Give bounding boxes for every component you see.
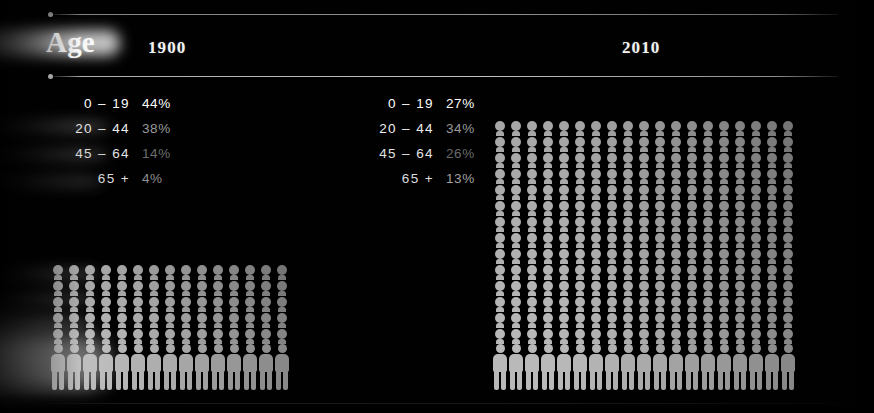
person-head-icon bbox=[620, 312, 636, 328]
person-head-icon bbox=[700, 248, 716, 264]
person-head-icon bbox=[508, 296, 524, 312]
person-head-icon bbox=[540, 232, 556, 248]
person-head-icon bbox=[194, 280, 210, 296]
legend-2010: 0 – 19 27% 20 – 44 34% 45 – 64 26% 65 + … bbox=[360, 96, 488, 196]
person-head-icon bbox=[716, 168, 732, 184]
person-head-icon bbox=[700, 136, 716, 152]
pictogram-head-row bbox=[492, 120, 796, 136]
person-head-icon bbox=[588, 136, 604, 152]
person-head-icon bbox=[732, 264, 748, 280]
person-head-icon bbox=[748, 312, 764, 328]
person-head-icon bbox=[684, 296, 700, 312]
pictogram-head-row bbox=[492, 264, 796, 280]
person-head-icon bbox=[700, 280, 716, 296]
person-head-icon bbox=[242, 280, 258, 296]
person-head-icon bbox=[194, 296, 210, 312]
person-head-icon bbox=[556, 184, 572, 200]
person-head-icon bbox=[636, 168, 652, 184]
person-head-icon bbox=[636, 328, 652, 344]
person-head-icon bbox=[540, 136, 556, 152]
person-head-icon bbox=[588, 232, 604, 248]
person-head-icon bbox=[146, 264, 162, 280]
person-head-icon bbox=[524, 280, 540, 296]
person-head-icon bbox=[668, 280, 684, 296]
person-head-icon bbox=[780, 200, 796, 216]
person-head-icon bbox=[130, 328, 146, 344]
person-figure-icon bbox=[66, 344, 82, 390]
person-figure-icon bbox=[130, 344, 146, 390]
person-head-icon bbox=[556, 168, 572, 184]
header-rule-top bbox=[50, 14, 838, 15]
person-head-icon bbox=[274, 328, 290, 344]
person-figure-icon bbox=[652, 344, 668, 390]
person-head-icon bbox=[732, 328, 748, 344]
person-figure-icon bbox=[242, 344, 258, 390]
person-head-icon bbox=[636, 184, 652, 200]
person-head-icon bbox=[524, 168, 540, 184]
person-head-icon bbox=[572, 152, 588, 168]
person-head-icon bbox=[556, 264, 572, 280]
person-head-icon bbox=[114, 280, 130, 296]
person-figure-icon bbox=[748, 344, 764, 390]
person-head-icon bbox=[780, 184, 796, 200]
person-head-icon bbox=[732, 312, 748, 328]
person-head-icon bbox=[588, 280, 604, 296]
pictogram-head-row bbox=[492, 296, 796, 312]
person-head-icon bbox=[226, 328, 242, 344]
person-head-icon bbox=[652, 216, 668, 232]
person-figure-icon bbox=[50, 344, 66, 390]
person-head-icon bbox=[700, 328, 716, 344]
pictogram-head-row bbox=[50, 280, 290, 296]
person-head-icon bbox=[178, 312, 194, 328]
person-head-icon bbox=[540, 296, 556, 312]
person-head-icon bbox=[524, 200, 540, 216]
person-head-icon bbox=[162, 280, 178, 296]
person-head-icon bbox=[178, 328, 194, 344]
person-head-icon bbox=[620, 200, 636, 216]
person-head-icon bbox=[780, 216, 796, 232]
person-head-icon bbox=[162, 312, 178, 328]
person-head-icon bbox=[748, 296, 764, 312]
legend-percent: 26% bbox=[434, 146, 488, 161]
person-head-icon bbox=[620, 232, 636, 248]
person-figure-icon bbox=[82, 344, 98, 390]
pictogram-head-row bbox=[492, 248, 796, 264]
legend-row: 0 – 19 44% bbox=[56, 96, 184, 121]
person-head-icon bbox=[604, 152, 620, 168]
person-head-icon bbox=[780, 168, 796, 184]
pictogram-grid bbox=[492, 120, 796, 390]
person-head-icon bbox=[50, 328, 66, 344]
person-head-icon bbox=[588, 200, 604, 216]
person-head-icon bbox=[652, 184, 668, 200]
person-head-icon bbox=[524, 184, 540, 200]
person-head-icon bbox=[716, 328, 732, 344]
person-head-icon bbox=[178, 296, 194, 312]
person-head-icon bbox=[66, 328, 82, 344]
person-head-icon bbox=[572, 232, 588, 248]
person-head-icon bbox=[636, 280, 652, 296]
person-head-icon bbox=[732, 296, 748, 312]
person-head-icon bbox=[572, 216, 588, 232]
person-head-icon bbox=[732, 168, 748, 184]
person-head-icon bbox=[620, 296, 636, 312]
person-head-icon bbox=[652, 296, 668, 312]
person-head-icon bbox=[588, 120, 604, 136]
person-head-icon bbox=[636, 136, 652, 152]
person-head-icon bbox=[194, 328, 210, 344]
person-head-icon bbox=[684, 184, 700, 200]
person-head-icon bbox=[748, 264, 764, 280]
person-figure-icon bbox=[508, 344, 524, 390]
person-head-icon bbox=[764, 296, 780, 312]
person-head-icon bbox=[556, 136, 572, 152]
person-head-icon bbox=[274, 280, 290, 296]
person-head-icon bbox=[492, 280, 508, 296]
person-head-icon bbox=[242, 296, 258, 312]
legend-age-range: 45 – 64 bbox=[360, 146, 434, 161]
person-head-icon bbox=[764, 136, 780, 152]
person-head-icon bbox=[604, 120, 620, 136]
person-head-icon bbox=[620, 168, 636, 184]
person-head-icon bbox=[130, 280, 146, 296]
person-head-icon bbox=[540, 168, 556, 184]
person-head-icon bbox=[700, 200, 716, 216]
legend-percent: 34% bbox=[434, 121, 488, 136]
